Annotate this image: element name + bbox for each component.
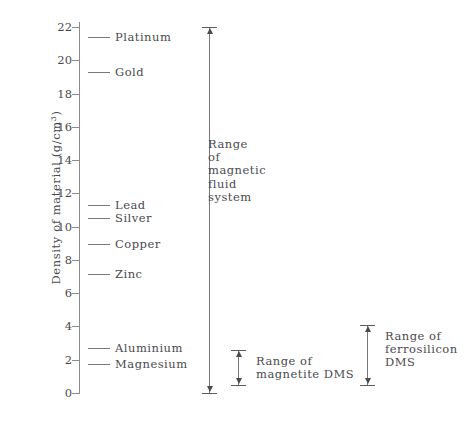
y-axis-line: [79, 22, 80, 394]
range-arrowhead-up-icon: [236, 351, 242, 357]
material-marker-line: [88, 218, 110, 219]
material-label: Magnesium: [115, 357, 188, 371]
material-marker-line: [88, 72, 110, 73]
y-axis-tick-label: 12: [50, 186, 72, 200]
y-axis-tick-label: 16: [50, 120, 72, 134]
y-axis-tick: [72, 127, 80, 128]
y-axis-tick-label: 6: [50, 286, 72, 300]
y-axis-tick: [72, 260, 80, 261]
y-axis-tick: [72, 326, 80, 327]
y-axis-tick: [72, 60, 80, 61]
y-axis-tick: [72, 293, 80, 294]
range-bar: [367, 325, 368, 385]
y-axis-tick-label: 8: [50, 253, 72, 267]
material-marker-line: [88, 364, 110, 365]
y-axis-tick: [72, 393, 80, 394]
y-axis-title-tail: ): [49, 110, 63, 115]
density-range-chart: Density of material (g/cm3) 024681012141…: [0, 0, 473, 427]
range-arrowhead-down-icon: [365, 378, 371, 384]
material-marker-line: [88, 274, 110, 275]
material-marker-line: [88, 348, 110, 349]
y-axis-tick-label: 10: [50, 220, 72, 234]
range-cap-bottom: [202, 393, 217, 394]
range-cap-bottom: [360, 385, 375, 386]
range-arrowhead-down-icon: [207, 386, 213, 392]
y-axis-tick-label: 14: [50, 153, 72, 167]
material-marker-line: [88, 37, 110, 38]
range-label: Range of ferrosilicon DMS: [385, 330, 458, 370]
y-axis-tick-label: 20: [50, 53, 72, 67]
range-arrowhead-up-icon: [207, 28, 213, 34]
y-axis-tick: [72, 227, 80, 228]
material-label: Silver: [115, 211, 152, 225]
y-axis-tick: [72, 94, 80, 95]
y-axis-tick-label: 22: [50, 20, 72, 34]
range-arrowhead-up-icon: [365, 326, 371, 332]
material-label: Platinum: [115, 30, 171, 44]
material-label: Copper: [115, 237, 161, 251]
material-label: Aluminium: [115, 341, 183, 355]
material-marker-line: [88, 205, 110, 206]
y-axis-tick: [72, 27, 80, 28]
y-axis-tick-label: 0: [50, 386, 72, 400]
y-axis-tick-label: 18: [50, 87, 72, 101]
y-axis-tick: [72, 360, 80, 361]
range-cap-bottom: [231, 385, 246, 386]
material-label: Gold: [115, 65, 144, 79]
range-label: Range of magnetite DMS: [256, 355, 354, 381]
range-label: Range of magnetic fluid system: [208, 138, 266, 204]
material-label: Zinc: [115, 267, 143, 281]
y-axis-tick-label: 2: [50, 353, 72, 367]
y-axis-tick: [72, 160, 80, 161]
range-arrowhead-down-icon: [236, 378, 242, 384]
material-label: Lead: [115, 198, 146, 212]
range-bar: [209, 27, 210, 393]
y-axis-tick: [72, 193, 80, 194]
material-marker-line: [88, 244, 110, 245]
y-axis-tick-label: 4: [50, 319, 72, 333]
